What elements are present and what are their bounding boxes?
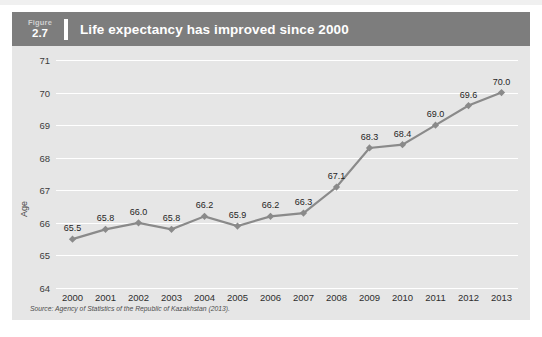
plot-area: 65.565.866.065.866.265.966.266.367.168.3… [56,60,518,288]
gridline [56,288,518,289]
data-point-label: 66.2 [196,200,214,210]
data-point-label: 66.0 [130,207,148,217]
data-point-label: 65.5 [64,223,82,233]
data-point-marker[interactable] [135,219,142,226]
data-point-label: 69.0 [427,109,445,119]
y-axis-tick-label: 69 [20,120,50,131]
data-point-label: 67.1 [328,171,346,181]
data-point-marker[interactable] [267,213,274,220]
data-point-label: 65.8 [163,213,181,223]
data-point-label: 68.3 [361,132,379,142]
x-axis-tick-label: 2013 [482,292,522,303]
data-point-marker[interactable] [102,226,109,233]
y-axis-tick-label: 68 [20,152,50,163]
data-point-marker[interactable] [69,236,76,243]
data-point-label: 66.3 [295,197,313,207]
chart-panel: Age 7170696867666564 65.565.866.065.866.… [12,46,530,320]
figure-number-block: Figure 2.7 [18,19,62,40]
data-point-label: 69.6 [460,90,478,100]
data-point-marker[interactable] [168,226,175,233]
data-point-marker[interactable] [201,213,208,220]
figure-label-word: Figure [18,19,62,27]
header-divider [64,19,68,40]
data-point-label: 66.2 [262,200,280,210]
data-point-marker[interactable] [498,89,505,96]
figure-header-bar: Figure 2.7 Life expectancy has improved … [12,12,530,46]
line-series-svg [56,60,518,288]
y-axis-tick-label: 67 [20,185,50,196]
page-top-strip [0,0,542,5]
figure-root: Figure 2.7 Life expectancy has improved … [0,0,542,337]
figure-number: 2.7 [18,27,62,39]
data-point-label: 70.0 [493,77,511,87]
source-note: Source: Agency of Statistics of the Repu… [30,305,230,312]
data-point-marker[interactable] [234,223,241,230]
data-point-label: 65.9 [229,210,247,220]
y-axis-tick-label: 71 [20,55,50,66]
y-axis-tick-label: 70 [20,87,50,98]
data-point-label: 68.4 [394,129,412,139]
y-axis-tick-label: 66 [20,217,50,228]
data-point-label: 65.8 [97,213,115,223]
figure-title: Life expectancy has improved since 2000 [80,22,349,37]
y-axis-tick-label: 64 [20,283,50,294]
y-axis-tick-label: 65 [20,250,50,261]
